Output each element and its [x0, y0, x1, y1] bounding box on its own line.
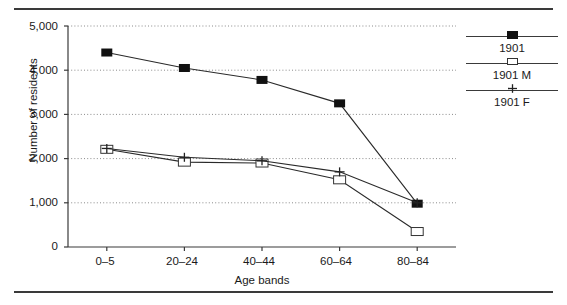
legend-entry-1901-m[interactable]: 1901 M — [466, 57, 558, 84]
open-square-icon — [507, 58, 518, 65]
series-1901-f — [102, 144, 422, 207]
filled-square-icon — [507, 31, 518, 39]
figure-container: Number of residents Age bands 5,000 4,00… — [0, 0, 567, 305]
legend-label: 1901 — [466, 42, 558, 54]
legend-entry-1901-f[interactable]: 1901 F — [466, 84, 558, 111]
series-1901 — [101, 49, 422, 208]
data-point — [411, 228, 423, 236]
legend-entry-1901[interactable]: 1901 — [466, 30, 558, 57]
legend-label: 1901 F — [466, 96, 558, 108]
series-layer — [101, 49, 423, 236]
data-point — [334, 176, 346, 184]
data-point — [101, 49, 112, 57]
x-tick-marks — [107, 247, 417, 251]
data-point — [334, 99, 345, 107]
axis-lines — [68, 26, 456, 247]
data-point — [179, 64, 190, 72]
gridlines — [68, 26, 456, 203]
plus-icon — [507, 83, 518, 94]
data-point — [257, 76, 268, 84]
legend: 1901 1901 M 1901 F — [466, 30, 558, 111]
legend-label: 1901 M — [466, 69, 558, 81]
